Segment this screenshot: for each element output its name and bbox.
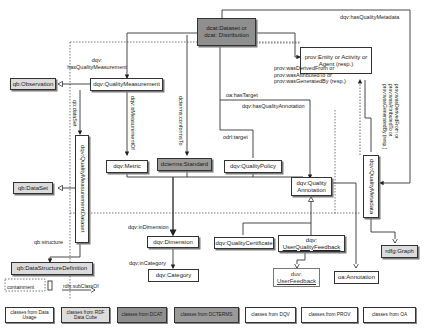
node-quality-policy-label: dqv:QualityPolicy	[230, 163, 276, 170]
key-subclass-label: rdfs:subClassOf	[63, 283, 99, 290]
node-qb-observation: qb:Observation	[10, 78, 56, 90]
node-dcat-dataset-label: dcat:Dataset or dcat: Distribution	[200, 25, 253, 39]
edge-label-prov-relations-vertical: prov:wasDerivedFrom or prov:wasAttribute…	[378, 84, 400, 152]
edge-label-qb-dataset: qb:dataSet	[71, 100, 78, 127]
node-category-label: dqv:Category	[156, 272, 192, 279]
node-qb-observation-label: qb:Observation	[13, 81, 54, 88]
node-quality-annotation-label-2: Annotation	[297, 187, 326, 194]
node-user-quality-feedback-label-2: UserQualityFeedback	[283, 244, 341, 251]
node-dcterms-standard: dcterms:Standard	[157, 158, 212, 171]
node-duv-user-feedback-label-2: UserFeedback	[277, 278, 316, 285]
node-data-structure-definition: qb:DataStructureDefinition	[11, 262, 93, 275]
node-quality-measurement-dataset: dqv:QualityMeasurementDataset	[75, 135, 89, 243]
node-dcterms-standard-label: dcterms:Standard	[161, 161, 208, 168]
legend-dcterms: classes from DCTERMS	[174, 307, 239, 323]
node-quality-measurement-dataset-label: dqv:QualityMeasurementDataset	[79, 145, 86, 232]
node-oa-annotation: oa:Annotation	[334, 271, 379, 284]
edge-label-has-quality-measurement: dqv: hasQualityMeasurement	[62, 57, 132, 70]
node-quality-metadata: dqv:QualityMetadata	[363, 155, 379, 218]
node-dimension: dqv:Dimension	[147, 236, 199, 248]
node-quality-certificate: dqv:QualityCertificate	[214, 237, 274, 249]
node-metric-label: dqv:Metric	[113, 163, 141, 170]
node-quality-annotation: dqv:Quality Annotation	[291, 177, 332, 196]
edge-label-in-category: dqv:inCategory	[129, 260, 166, 267]
edge-label-has-target: oa:hasTarget	[226, 92, 258, 99]
legend-data-usage: classes from Data Usage	[5, 307, 54, 323]
edge-label-prov-rel-3: prov:wasGeneratedBy (resp.)	[274, 78, 346, 85]
node-quality-annotation-label-1: dqv:Quality	[296, 180, 326, 187]
node-rdfg-graph: rdfg:Graph	[381, 245, 418, 258]
node-user-quality-feedback-label-1: dqv:	[306, 237, 317, 244]
legend-prov: classes from PROV	[301, 307, 358, 323]
node-quality-policy: dqv:QualityPolicy	[224, 160, 282, 173]
edge-label-qb-structure: qb:structure	[34, 239, 63, 246]
node-data-structure-definition-label: qb:DataStructureDefinition	[17, 265, 87, 272]
legend-dcat: classes from DCAT	[117, 307, 167, 323]
key-containment-label: containment	[7, 284, 34, 291]
node-quality-measurement-label: dqv:QualityMeasurement	[93, 81, 160, 88]
legend-oa: classes from OA	[363, 307, 416, 323]
legend-dqv: classes from DQV	[245, 307, 296, 323]
edge-label-has-quality-annotation: dqv:hasQualityAnnotation	[242, 103, 305, 110]
node-quality-measurement: dqv:QualityMeasurement	[90, 78, 163, 91]
node-metric: dqv:Metric	[106, 160, 148, 173]
legend-rdf-data-cube: classes from RDF Data Cube	[61, 307, 110, 323]
node-oa-annotation-label: oa:Annotation	[338, 274, 375, 281]
node-quality-certificate-label: dqv:QualityCertificate	[215, 240, 272, 247]
node-qb-dataset: qb:DataSet	[13, 182, 53, 194]
edge-label-in-dimension: dqv:inDimension	[128, 224, 169, 231]
node-rdfg-graph-label: rdfg:Graph	[385, 248, 414, 255]
node-duv-user-feedback: duv: UserFeedback	[273, 268, 320, 287]
node-category: dqv:Category	[148, 269, 199, 282]
edge-label-conforms-to: dcterms:conformsTo	[177, 96, 184, 146]
edge-label-prov-relations: prov:wasDerivedFrom or prov:wasAttribute…	[274, 65, 346, 85]
node-qb-dataset-label: qb:DataSet	[18, 185, 48, 192]
node-dimension-label: dqv:Dimension	[153, 239, 193, 246]
edge-label-is-measurement-of: dqv:isMeasurementOf	[129, 96, 136, 150]
node-user-quality-feedback: dqv: UserQualityFeedback	[278, 235, 345, 252]
diagram-canvas: dcat:Dataset or dcat: Distribution prov:…	[0, 0, 425, 329]
node-dcat-dataset: dcat:Dataset or dcat: Distribution	[197, 18, 256, 46]
edge-label-odrl-target: odrl:target	[223, 134, 248, 141]
edge-label-has-quality-metadata: dqv:hasQualityMetadata	[340, 14, 399, 21]
node-quality-metadata-label: dqv:QualityMetadata	[368, 159, 375, 214]
node-duv-user-feedback-label-1: duv:	[291, 271, 302, 278]
edge-label-has-quality-measurement-2: hasQualityMeasurement	[62, 64, 132, 71]
